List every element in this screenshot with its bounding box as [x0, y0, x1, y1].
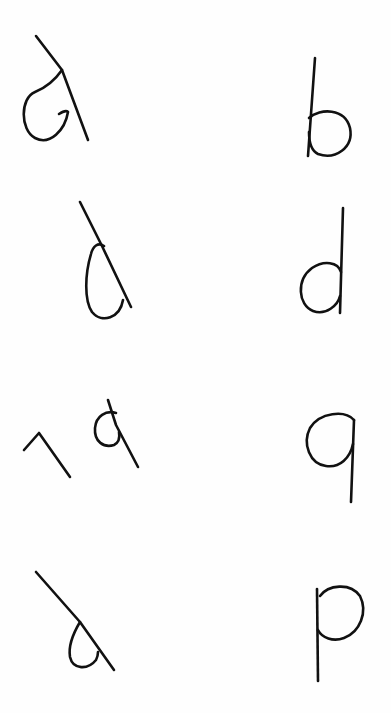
glyph-stroke: [95, 412, 119, 446]
glyph-stroke: [301, 263, 341, 312]
glyph-stroke: [24, 433, 70, 477]
handwritten-glyphs: [0, 0, 391, 713]
glyph-stroke: [309, 111, 351, 155]
glyph-p: [317, 587, 363, 681]
glyph-q-small: [95, 400, 138, 467]
glyph-stroke: [36, 572, 114, 670]
glyph-q: [307, 414, 354, 502]
glyph-seven: [24, 433, 70, 477]
glyph-stroke: [317, 589, 318, 681]
glyph-stroke: [351, 420, 354, 502]
glyph-d-slanted: [80, 202, 131, 318]
glyph-stroke: [24, 70, 68, 140]
glyph-a-rotated: [24, 36, 88, 140]
glyph-stroke: [318, 587, 363, 640]
glyph-stroke: [307, 414, 354, 466]
glyph-b: [308, 58, 351, 156]
glyph-d: [301, 208, 343, 313]
glyph-b-rotated: [36, 572, 114, 670]
glyph-stroke: [108, 400, 138, 467]
handwriting-sheet: d (rotated)bd (slanted)d7 (rotated)q (sm…: [0, 0, 391, 713]
